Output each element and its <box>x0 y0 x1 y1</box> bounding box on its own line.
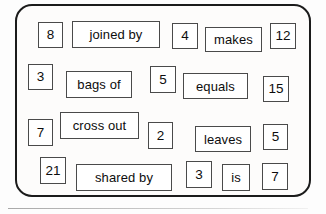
word-card[interactable]: leaves <box>195 126 251 152</box>
number-card[interactable]: 15 <box>263 76 289 102</box>
worksheet-canvas: 8joined by4makes123bags of5equals157cros… <box>0 0 326 214</box>
word-card[interactable]: equals <box>183 73 248 99</box>
scan-artifact-line <box>8 208 308 209</box>
number-card[interactable]: 7 <box>28 119 53 146</box>
number-card[interactable]: 4 <box>172 23 198 49</box>
word-card[interactable]: cross out <box>60 112 139 139</box>
word-card[interactable]: makes <box>205 27 262 52</box>
number-card[interactable]: 5 <box>263 124 288 150</box>
number-card[interactable]: 2 <box>148 122 173 149</box>
number-card[interactable]: 5 <box>150 66 176 93</box>
word-card[interactable]: shared by <box>76 164 172 191</box>
word-card[interactable]: bags of <box>66 71 132 98</box>
word-card[interactable]: is <box>222 164 250 191</box>
number-card[interactable]: 3 <box>28 64 53 90</box>
number-card[interactable]: 12 <box>270 23 296 49</box>
number-card[interactable]: 8 <box>38 22 63 48</box>
word-card[interactable]: joined by <box>72 21 160 48</box>
number-card[interactable]: 21 <box>40 157 66 184</box>
word-card-grid: 8joined by4makes123bags of5equals157cros… <box>0 0 326 214</box>
number-card[interactable]: 7 <box>262 163 288 190</box>
number-card[interactable]: 3 <box>186 161 212 188</box>
